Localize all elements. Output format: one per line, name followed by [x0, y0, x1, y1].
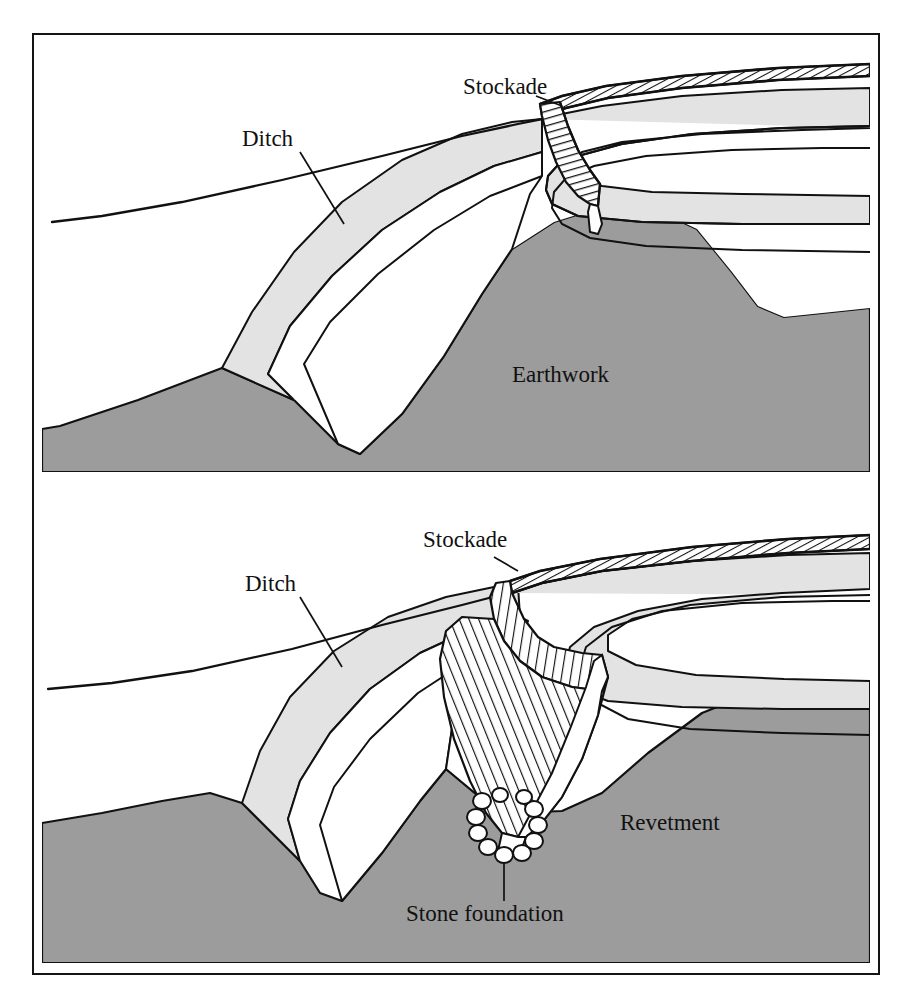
label-stockade-lower: Stockade — [423, 527, 507, 552]
panel-upper-rampart: Stockade Ditch Earthwork — [42, 44, 870, 472]
label-revetment: Revetment — [620, 810, 720, 835]
lower-rampart-illustration: Stockade Ditch Revetment Stone foundatio… — [42, 501, 870, 963]
figure-root: CELTIC RAMPARTS — [0, 0, 899, 983]
label-stockade: Stockade — [463, 74, 547, 99]
figure-frame: CELTIC RAMPARTS — [32, 33, 880, 975]
label-earthwork: Earthwork — [512, 362, 610, 387]
label-ditch-lower: Ditch — [245, 571, 297, 596]
label-ditch: Ditch — [242, 126, 294, 151]
panel-lower-rampart: Stockade Ditch Revetment Stone foundatio… — [42, 501, 870, 963]
label-stone-foundation: Stone foundation — [406, 901, 564, 926]
upper-rampart-illustration: Stockade Ditch Earthwork — [42, 44, 870, 472]
